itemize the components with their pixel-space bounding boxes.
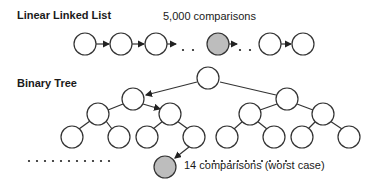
target-node: [154, 156, 176, 178]
binary-tree: [61, 67, 360, 178]
target-node: [207, 33, 229, 55]
search-comparison-diagram: [0, 0, 380, 195]
linked-list: [74, 33, 314, 55]
